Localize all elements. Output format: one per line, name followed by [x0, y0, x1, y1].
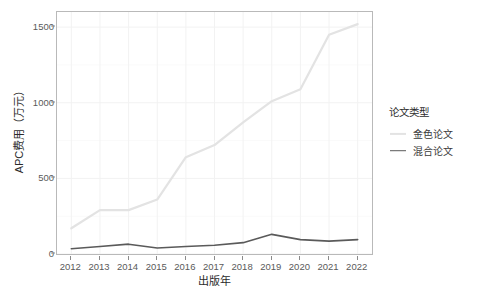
x-tick-mark [128, 256, 129, 260]
x-tick-label: 2018 [232, 261, 253, 272]
legend-item-gold[interactable]: 金色论文 [389, 126, 475, 141]
y-tick-mark [51, 101, 55, 102]
x-tick-label: 2016 [174, 261, 195, 272]
x-tick-label: 2019 [260, 261, 281, 272]
legend-label-gold: 金色论文 [413, 126, 453, 141]
x-tick-label: 2020 [289, 261, 310, 272]
x-tick-mark [156, 256, 157, 260]
legend-line-swatch-gold [389, 126, 407, 141]
gridlines [57, 12, 372, 254]
x-tick-mark [214, 256, 215, 260]
legend-line-swatch-hybrid [389, 143, 407, 158]
x-tick-label: 2021 [317, 261, 338, 272]
x-tick-mark [271, 256, 272, 260]
legend: 论文类型 金色论文 混合论文 [389, 104, 475, 160]
x-tick-mark [242, 256, 243, 260]
x-tick-label: 2013 [88, 261, 109, 272]
x-axis-title: 出版年 [56, 272, 373, 288]
legend-item-hybrid[interactable]: 混合论文 [389, 143, 475, 158]
plot-svg [57, 12, 372, 254]
y-tick-mark [51, 177, 55, 178]
x-tick-label: 2017 [203, 261, 224, 272]
y-tick-mark [51, 253, 55, 254]
y-axis-ticks: 050010001500 [22, 0, 54, 288]
x-tick-mark [328, 256, 329, 260]
x-tick-mark [185, 256, 186, 260]
plot-area [56, 11, 373, 255]
x-tick-mark [70, 256, 71, 260]
x-tick-mark [357, 256, 358, 260]
line-chart: APC费用（万元） 050010001500 20122013201420152… [0, 0, 477, 288]
x-tick-mark [99, 256, 100, 260]
y-tick-mark [51, 26, 55, 27]
legend-label-hybrid: 混合论文 [413, 143, 453, 158]
x-axis-title-label: 出版年 [198, 275, 231, 287]
x-tick-label: 2012 [60, 261, 81, 272]
x-tick-label: 2014 [117, 261, 138, 272]
x-tick-label: 2015 [146, 261, 167, 272]
x-tick-label: 2022 [346, 261, 367, 272]
x-tick-mark [299, 256, 300, 260]
legend-title: 论文类型 [389, 104, 475, 119]
